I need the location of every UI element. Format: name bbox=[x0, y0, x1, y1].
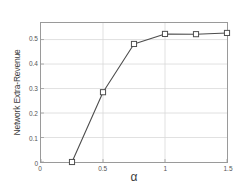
y-tick-label: 0.4 bbox=[12, 60, 38, 67]
figure-canvas: Network Extra-Revenue 00.10.20.30.40.5 0… bbox=[0, 0, 242, 191]
data-series-layer bbox=[41, 23, 227, 162]
y-axis-tick-labels: 00.10.20.30.40.5 bbox=[11, 22, 38, 163]
y-tick-label: 0.2 bbox=[12, 110, 38, 117]
x-axis-label: α bbox=[40, 170, 228, 184]
y-tick-label: 0.1 bbox=[12, 135, 38, 142]
y-tick-label: 0.5 bbox=[12, 35, 38, 42]
plot-area bbox=[40, 22, 228, 163]
y-tick-label: 0.3 bbox=[12, 85, 38, 92]
